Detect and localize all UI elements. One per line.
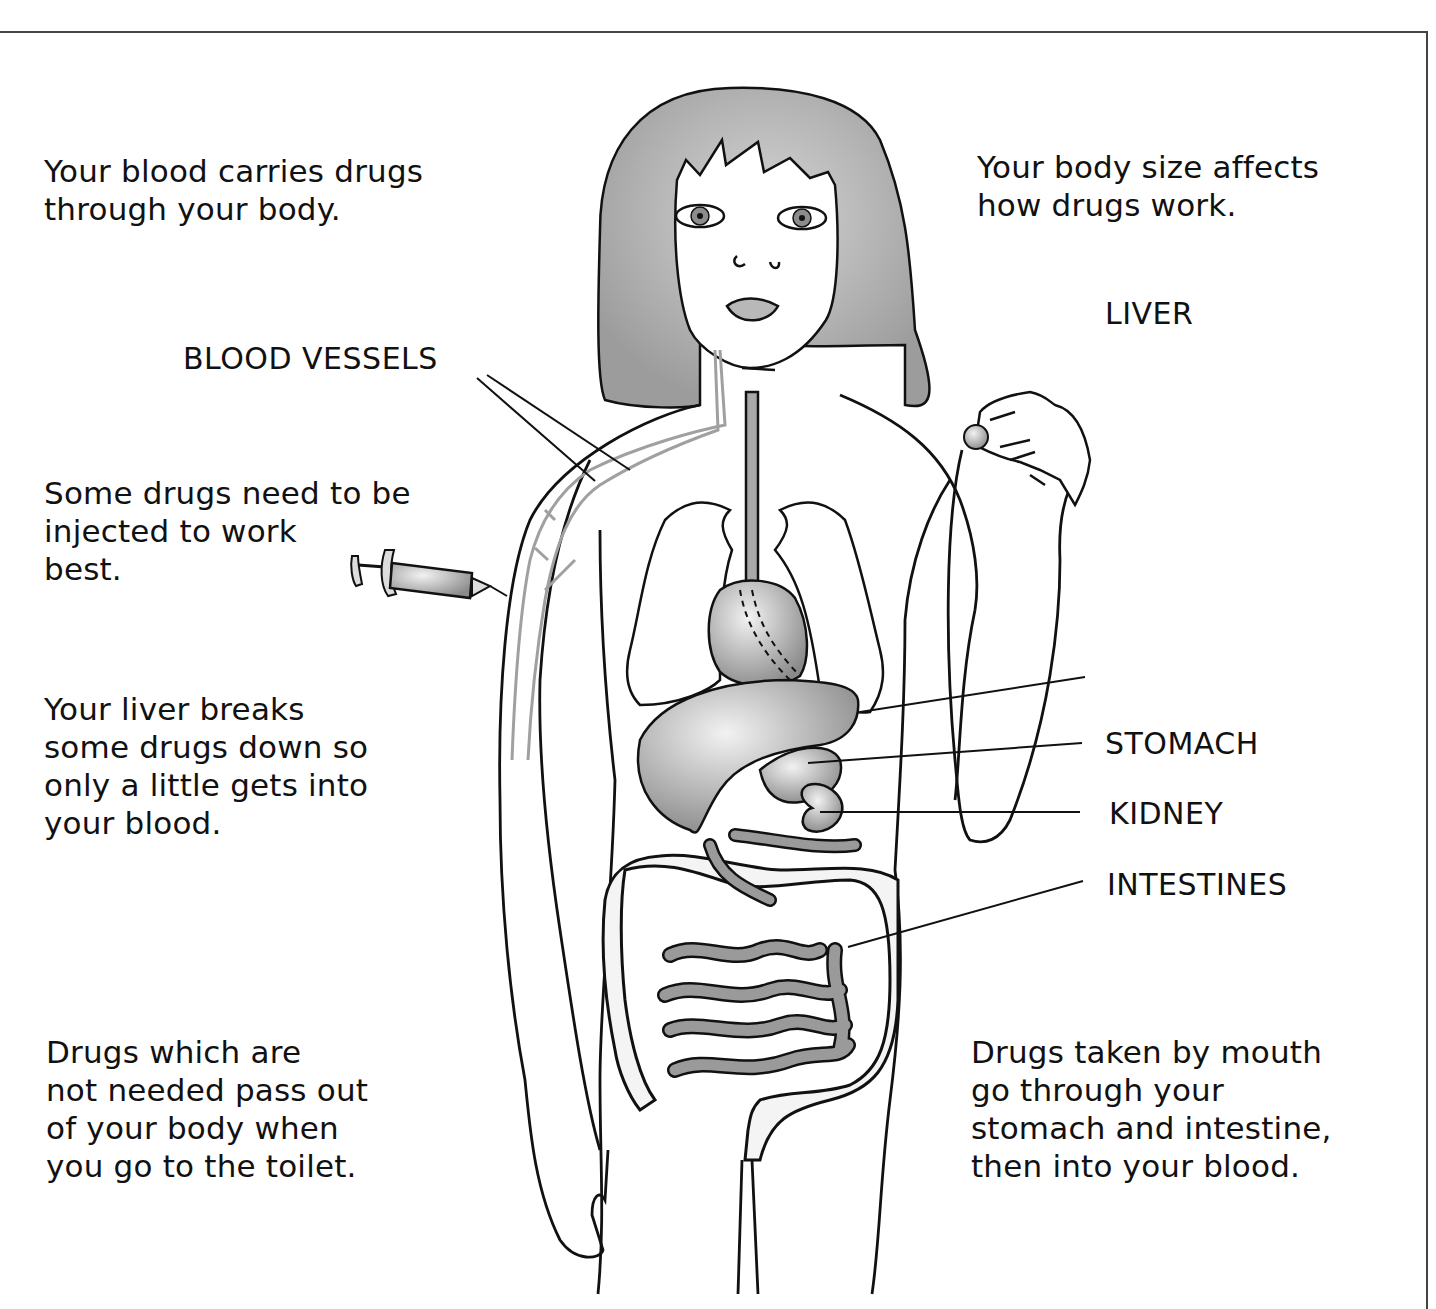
label-kidney: KIDNEY bbox=[1109, 797, 1223, 831]
caption-pass-out: Drugs which are not needed pass out of y… bbox=[46, 1033, 368, 1185]
caption-body-size: Your body size affects how drugs work. bbox=[977, 148, 1319, 224]
blood-vessels-pointer-1 bbox=[477, 378, 595, 481]
large-intestine bbox=[603, 855, 898, 1160]
caption-taken-by-mouth: Drugs taken by mouth go through your sto… bbox=[971, 1033, 1332, 1185]
label-blood-vessels: BLOOD VESSELS bbox=[183, 342, 438, 376]
label-stomach: STOMACH bbox=[1105, 727, 1259, 761]
caption-blood-carries-drugs: Your blood carries drugs through your bo… bbox=[44, 152, 423, 228]
heart bbox=[709, 581, 807, 686]
pill bbox=[964, 425, 988, 449]
kidney bbox=[802, 784, 843, 832]
label-intestines: INTESTINES bbox=[1107, 868, 1287, 902]
caption-injected: Some drugs need to be injected to work b… bbox=[44, 474, 411, 588]
liver-pointer bbox=[860, 677, 1085, 712]
caption-liver-breaks: Your liver breaks some drugs down so onl… bbox=[44, 690, 368, 842]
label-liver: LIVER bbox=[1105, 297, 1193, 331]
stomach-pointer bbox=[808, 743, 1082, 763]
oesophagus bbox=[746, 392, 758, 588]
fist-with-pill bbox=[964, 392, 1090, 505]
